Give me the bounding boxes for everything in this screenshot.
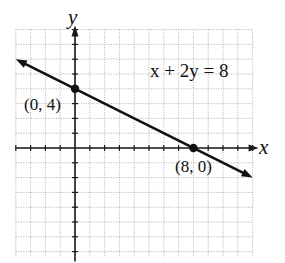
line-arrow-left-icon <box>16 59 28 67</box>
line-arrow-right-icon <box>241 169 253 177</box>
intercept-point <box>189 144 197 152</box>
point-label-8-0: (8, 0) <box>175 157 212 176</box>
x-axis-label: x <box>258 135 269 159</box>
graph: y x x + 2y = 8 (0, 4) (8, 0) <box>0 0 285 263</box>
point-label-0-4: (0, 4) <box>24 95 61 114</box>
x-axis-arrow-icon <box>249 145 259 152</box>
equation-label: x + 2y = 8 <box>150 60 228 81</box>
intercept-point <box>71 85 79 93</box>
y-axis-label: y <box>66 5 78 29</box>
